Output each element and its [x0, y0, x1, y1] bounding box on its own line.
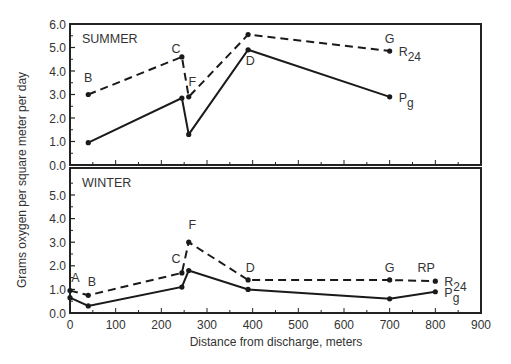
y-tick-label: 0.0: [49, 159, 66, 173]
data-point: [179, 270, 184, 275]
data-point: [186, 240, 191, 245]
x-tick-label: 700: [380, 318, 400, 332]
data-point: [387, 94, 392, 99]
data-point: [86, 140, 91, 145]
y-tick-label: 3.0: [49, 236, 66, 250]
x-tick-label: 200: [151, 318, 171, 332]
series-label-sub: g: [453, 291, 460, 305]
svg-text:Grams oxygen per square meter: Grams oxygen per square meter per day: [15, 72, 29, 288]
data-point: [246, 287, 251, 292]
data-point: [387, 48, 392, 53]
x-tick-label: 400: [243, 318, 263, 332]
data-point: [246, 32, 251, 37]
data-point: [179, 95, 184, 100]
y-tick-label: 4.0: [49, 65, 66, 79]
oxygen-chart: Grams oxygen per square meter per day Di…: [0, 0, 511, 364]
station-label: D: [246, 261, 255, 275]
panel-title: WINTER: [82, 176, 131, 190]
y-tick-label: 2.0: [49, 259, 66, 273]
data-point: [186, 132, 191, 137]
station-label: G: [385, 32, 395, 46]
y-tick-label: 1.0: [49, 135, 66, 149]
x-tick-label: 0: [67, 318, 74, 332]
series-label-main: R: [399, 45, 408, 59]
series-label-sub: 24: [408, 50, 422, 64]
data-point: [433, 279, 438, 284]
data-point: [387, 296, 392, 301]
station-label: RP: [418, 261, 435, 275]
panel-title: SUMMER: [82, 32, 138, 46]
data-point: [433, 289, 438, 294]
data-point: [246, 47, 251, 52]
y-tick-label: 5.0: [49, 41, 66, 55]
x-tick-label: 100: [106, 318, 126, 332]
y-tick-label: 2.0: [49, 112, 66, 126]
y-tick-label: 0.0: [49, 307, 66, 321]
y-axis-title: Grams oxygen per square meter per day: [15, 72, 29, 288]
data-point: [86, 92, 91, 97]
station-label: C: [171, 252, 180, 266]
winter-panel: 0.01.02.03.04.05.0WINTERR24PgABCFDGRP: [49, 168, 481, 321]
station-label: F: [189, 218, 197, 232]
y-tick-label: 3.0: [49, 88, 66, 102]
x-tick-label: 300: [197, 318, 217, 332]
station-label: B: [84, 71, 92, 85]
data-point: [179, 284, 184, 289]
series-label-main: P: [444, 286, 452, 300]
data-point: [186, 94, 191, 99]
data-point: [246, 277, 251, 282]
x-tick-label: 600: [334, 318, 354, 332]
data-point: [86, 293, 91, 298]
data-point: [186, 268, 191, 273]
y-tick-label: 4.0: [49, 212, 66, 226]
x-tick-label: 900: [471, 318, 491, 332]
data-point: [67, 288, 72, 293]
x-tick-label: 500: [288, 318, 308, 332]
data-point: [86, 303, 91, 308]
station-label: A: [71, 271, 80, 285]
station-label: G: [385, 261, 395, 275]
x-axis-title: Distance from discharge, meters: [190, 335, 363, 349]
series-line-pg: [88, 50, 389, 143]
station-label: C: [171, 42, 180, 56]
series-label-main: P: [399, 91, 407, 105]
data-point: [67, 295, 72, 300]
station-label: D: [246, 54, 255, 68]
summer-panel: 0.01.02.03.04.05.06.0SUMMERR24PgBCFDG: [49, 18, 481, 173]
series-end-label-pg: Pg: [399, 91, 414, 110]
series-label-sub: g: [407, 96, 414, 110]
station-label: F: [189, 75, 197, 89]
series-line-pg: [70, 271, 435, 306]
station-label: B: [88, 275, 96, 289]
x-tick-label: 800: [425, 318, 445, 332]
y-tick-label: 1.0: [49, 283, 66, 297]
y-tick-label: 6.0: [49, 18, 66, 32]
series-end-label-r24: R24: [399, 45, 422, 64]
x-axis-tick-labels: 0100200300400500600700800900: [67, 318, 492, 332]
y-tick-label: 5.0: [49, 189, 66, 203]
data-point: [387, 277, 392, 282]
